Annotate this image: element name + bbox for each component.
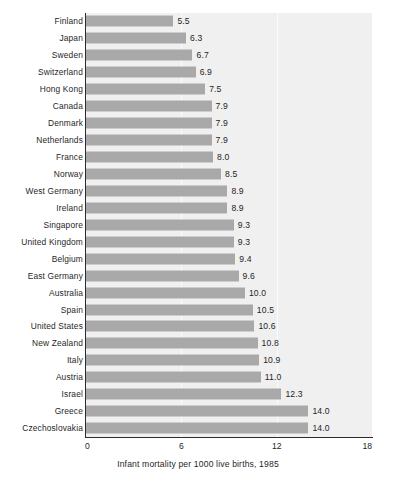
bar-row: Australia10.0: [0, 284, 396, 300]
bar-value-label: 6.3: [190, 33, 202, 43]
bar-value-label: 12.3: [285, 389, 302, 399]
bar: [86, 253, 235, 264]
bar-value-label: 10.8: [262, 338, 279, 348]
category-label: Switzerland: [38, 67, 83, 77]
bar: [86, 321, 254, 332]
category-label: Hong Kong: [40, 84, 83, 94]
bar-chart: Finland5.5Japan6.3Sweden6.7Switzerland6.…: [0, 0, 396, 485]
category-label: Australia: [49, 288, 83, 298]
bar-value-label: 6.9: [200, 67, 212, 77]
bar: [86, 219, 234, 230]
category-label: Canada: [53, 101, 83, 111]
category-label: Israel: [62, 389, 83, 399]
x-tick-label: 18: [362, 441, 372, 451]
x-axis-line: [85, 437, 373, 438]
bar-value-label: 9.6: [243, 271, 255, 281]
bar-row: Netherlands7.9: [0, 132, 396, 148]
bar-row: Denmark7.9: [0, 115, 396, 131]
category-label: Greece: [55, 406, 83, 416]
bar-row: New Zealand10.8: [0, 335, 396, 351]
bar: [86, 355, 259, 366]
bar-value-label: 10.5: [257, 305, 274, 315]
category-label: West Germany: [26, 186, 84, 196]
bar-value-label: 9.3: [238, 220, 250, 230]
bar: [86, 287, 245, 298]
category-label: Spain: [61, 305, 83, 315]
bar: [86, 406, 308, 417]
bar: [86, 389, 281, 400]
bar-value-label: 7.5: [209, 84, 221, 94]
category-label: New Zealand: [32, 338, 83, 348]
bar: [86, 100, 212, 111]
category-label: United States: [31, 321, 83, 331]
bar-row: Switzerland6.9: [0, 64, 396, 80]
bar-value-label: 14.0: [312, 406, 329, 416]
category-label: Austria: [56, 372, 83, 382]
bar: [86, 50, 192, 61]
bar-value-label: 7.9: [216, 101, 228, 111]
bar-value-label: 10.6: [258, 321, 275, 331]
bar-row: Hong Kong7.5: [0, 81, 396, 97]
bar-row: Belgium9.4: [0, 250, 396, 266]
bar-value-label: 8.0: [217, 152, 229, 162]
bar-row: Spain10.5: [0, 301, 396, 317]
bar-value-label: 10.9: [263, 355, 280, 365]
bar-row: Finland5.5: [0, 13, 396, 29]
bar-row: Singapore9.3: [0, 217, 396, 233]
bar-value-label: 8.9: [231, 186, 243, 196]
bar: [86, 185, 227, 196]
category-label: Finland: [54, 16, 83, 26]
category-label: Japan: [59, 33, 83, 43]
bar-row: Japan6.3: [0, 30, 396, 46]
category-label: Denmark: [48, 118, 83, 128]
category-label: France: [56, 152, 83, 162]
category-label: Sweden: [52, 50, 83, 60]
bar-row: Austria11.0: [0, 369, 396, 385]
category-label: East Germany: [28, 271, 83, 281]
bar-value-label: 14.0: [312, 423, 329, 433]
bar-row: Israel12.3: [0, 386, 396, 402]
bar-row: United Kingdom9.3: [0, 233, 396, 249]
bar: [86, 236, 234, 247]
bar-row: Norway8.5: [0, 166, 396, 182]
bar: [86, 168, 221, 179]
bar: [86, 270, 239, 281]
category-label: Singapore: [43, 220, 83, 230]
bar: [86, 16, 173, 27]
bar-row: Greece14.0: [0, 403, 396, 419]
category-label: Belgium: [52, 254, 83, 264]
bar: [86, 202, 227, 213]
bar: [86, 372, 261, 383]
bar-row: Sweden6.7: [0, 47, 396, 63]
bar-value-label: 8.9: [231, 203, 243, 213]
bar: [86, 117, 212, 128]
bar-row: United States10.6: [0, 318, 396, 334]
bar-value-label: 9.4: [239, 254, 251, 264]
bar: [86, 338, 258, 349]
category-label: Norway: [54, 169, 83, 179]
bar-value-label: 8.5: [225, 169, 237, 179]
bar-value-label: 6.7: [196, 50, 208, 60]
bar-value-label: 7.9: [216, 135, 228, 145]
bar: [86, 134, 212, 145]
bar-value-label: 9.3: [238, 237, 250, 247]
bar-value-label: 11.0: [265, 372, 282, 382]
category-label: United Kingdom: [21, 237, 83, 247]
bar-row: France8.0: [0, 149, 396, 165]
bar: [86, 151, 213, 162]
bar-value-label: 10.0: [249, 288, 266, 298]
bar-value-label: 7.9: [216, 118, 228, 128]
bar: [86, 304, 253, 315]
bar-row: Czechoslovakia14.0: [0, 420, 396, 436]
bar-row: Ireland8.9: [0, 200, 396, 216]
x-tick-label: 6: [179, 441, 184, 451]
bar-row: Italy10.9: [0, 352, 396, 368]
bar-row: East Germany9.6: [0, 267, 396, 283]
category-label: Netherlands: [36, 135, 83, 145]
bar-value-label: 5.5: [177, 16, 189, 26]
bar-row: West Germany8.9: [0, 183, 396, 199]
bar-row: Canada7.9: [0, 98, 396, 114]
bar: [86, 423, 308, 434]
x-tick-label: 0: [85, 441, 90, 451]
category-label: Italy: [67, 355, 83, 365]
